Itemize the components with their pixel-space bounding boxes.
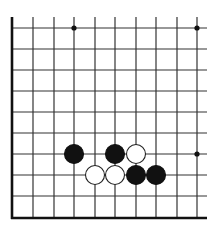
black-stone — [106, 145, 125, 164]
star-point-icon — [194, 25, 199, 30]
white-stone — [86, 166, 105, 185]
star-point-icon — [71, 25, 76, 30]
board-edges — [11, 17, 207, 219]
black-stone — [147, 166, 166, 185]
black-stone — [127, 166, 146, 185]
white-stone — [106, 166, 125, 185]
grid-lines — [12, 17, 207, 218]
go-board — [0, 0, 223, 231]
white-stone — [127, 145, 146, 164]
black-stone — [65, 145, 84, 164]
star-point-icon — [194, 151, 199, 156]
